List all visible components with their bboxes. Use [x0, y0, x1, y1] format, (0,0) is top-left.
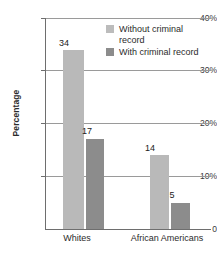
- bar-chart: Percentage 40% 30% 20% 10% 0 34 17 14 5 …: [0, 0, 217, 263]
- bar-value-whites-with: 17: [75, 126, 99, 136]
- bar-whites-without-criminal-record: [63, 50, 84, 229]
- legend-label-with-criminal-record: With criminal record: [119, 47, 199, 58]
- x-axis-line: [45, 229, 211, 230]
- legend-swatch-icon-dark: [106, 48, 114, 56]
- bar-value-whites-without: 34: [52, 38, 76, 48]
- x-axis-label-african-americans: African Americans: [121, 233, 213, 243]
- legend-item-without-criminal-record: Without criminal record: [106, 24, 199, 45]
- y-axis-title: Percentage: [11, 68, 21, 158]
- legend-item-with-criminal-record: With criminal record: [106, 47, 199, 58]
- bar-african-americans-with-criminal-record: [171, 203, 190, 229]
- bar-value-african-americans-with: 5: [160, 190, 184, 200]
- legend: Without criminal record With criminal re…: [106, 24, 199, 60]
- x-axis-label-whites: Whites: [52, 233, 102, 243]
- bar-whites-with-criminal-record: [86, 139, 104, 229]
- bar-value-african-americans-without: 14: [138, 143, 162, 153]
- legend-label-without-criminal-record: Without criminal record: [119, 24, 199, 45]
- legend-swatch-icon-light: [106, 25, 114, 33]
